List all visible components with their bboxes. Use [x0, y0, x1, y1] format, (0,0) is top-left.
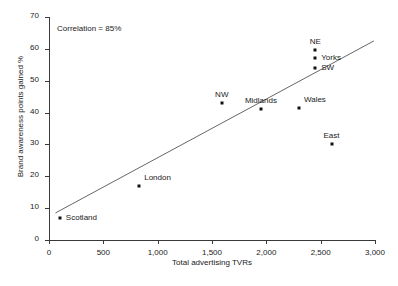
x-tick [266, 240, 267, 244]
data-point-label: Midlands [245, 96, 277, 105]
x-axis-title: Total advertising TVRs [49, 258, 375, 267]
y-tick-label: 30 [30, 138, 39, 147]
data-point-label: Yorks [321, 53, 341, 62]
x-tick-label: 3,000 [365, 248, 385, 257]
y-tick-label: 40 [30, 107, 39, 116]
plot-area: 010203040506070 05001,0001,5002,0002,500… [49, 17, 375, 240]
data-point [314, 49, 317, 52]
y-tick-label: 0 [35, 234, 39, 243]
x-tick-label: 0 [47, 248, 51, 257]
x-tick-label: 1,000 [148, 248, 168, 257]
y-tick-label: 70 [30, 11, 39, 20]
data-point-label: NE [310, 37, 321, 46]
data-point [330, 143, 333, 146]
x-tick-label: 500 [97, 248, 110, 257]
data-point-label: SW [321, 63, 334, 72]
data-point-label: East [324, 131, 340, 140]
data-point [297, 106, 300, 109]
x-tick [158, 240, 159, 244]
data-point-label: London [144, 173, 171, 182]
data-point-label: Wales [304, 95, 326, 104]
x-tick-label: 1,500 [202, 248, 222, 257]
data-point [58, 216, 61, 219]
y-tick-label: 50 [30, 75, 39, 84]
data-point [138, 184, 141, 187]
trend-line [49, 17, 375, 240]
x-tick-label: 2,000 [256, 248, 276, 257]
x-tick [49, 240, 50, 244]
data-point-label: Scotland [66, 213, 97, 222]
y-tick-label: 10 [30, 202, 39, 211]
x-tick-label: 2,500 [311, 248, 331, 257]
x-tick [212, 240, 213, 244]
x-tick [103, 240, 104, 244]
x-tick [321, 240, 322, 244]
x-tick [375, 240, 376, 244]
data-point [314, 57, 317, 60]
data-point [314, 66, 317, 69]
y-tick-label: 60 [30, 43, 39, 52]
y-axis-title: Brand awareness points gained % [16, 22, 25, 212]
data-point [220, 102, 223, 105]
y-tick-label: 20 [30, 170, 39, 179]
chart-page: Correlation = 85% 010203040506070 05001,… [0, 0, 398, 286]
data-point [259, 108, 262, 111]
data-point-label: NW [215, 90, 228, 99]
